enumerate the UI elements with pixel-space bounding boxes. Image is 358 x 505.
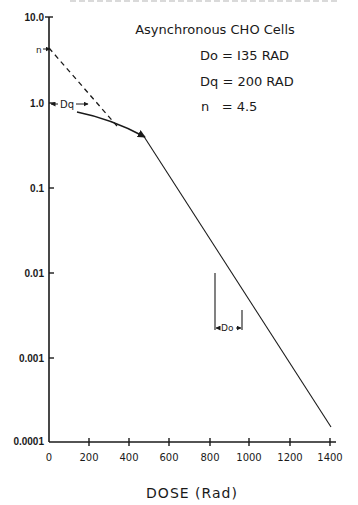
x-tick-label: 200 bbox=[79, 452, 98, 463]
survival-curve-shoulder bbox=[77, 112, 145, 137]
dq-label: Dq bbox=[60, 99, 74, 110]
y-tick-label: 0.1 bbox=[30, 183, 44, 194]
y-tick-label: 1.0 bbox=[30, 98, 44, 109]
legend-n: n = 4.5 bbox=[201, 99, 257, 114]
y-tick-label: 10.0 bbox=[25, 12, 45, 23]
n-label: n bbox=[36, 45, 42, 55]
x-tick-label: 800 bbox=[200, 452, 219, 463]
extrapolation-dashed-line bbox=[49, 48, 117, 126]
do-label: Do bbox=[221, 323, 234, 333]
legend: Asynchronous CHO Cells Do = I35 RAD Dq =… bbox=[135, 22, 295, 114]
y-tick-label: 0.0001 bbox=[13, 436, 44, 447]
x-tick-label: 1200 bbox=[277, 452, 302, 463]
x-tick-label: 1400 bbox=[317, 452, 342, 463]
x-tick-label: 400 bbox=[119, 452, 138, 463]
x-tick-label: 0 bbox=[46, 452, 52, 463]
survival-curve-linear bbox=[143, 135, 331, 427]
y-tick-label: 0.01 bbox=[25, 268, 45, 279]
y-tick-label: 0.001 bbox=[19, 353, 44, 364]
legend-dq: Dq = 200 RAD bbox=[200, 74, 294, 89]
legend-title: Asynchronous CHO Cells bbox=[135, 22, 295, 37]
survival-chart: 10.0 1.0 0.1 0.01 0.001 0.0001 0 200 400… bbox=[0, 0, 358, 505]
x-tick-label: 600 bbox=[159, 452, 178, 463]
legend-do: Do = I35 RAD bbox=[200, 48, 289, 63]
x-axis-title: DOSE (Rad) bbox=[146, 485, 238, 501]
x-tick-label: 1000 bbox=[236, 452, 261, 463]
